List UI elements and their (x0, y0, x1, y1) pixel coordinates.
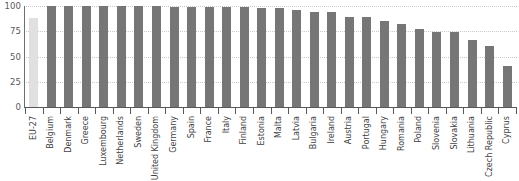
x-axis-tick (25, 107, 26, 114)
x-axis-tick (130, 107, 131, 114)
x-axis-tick (376, 107, 377, 114)
x-label-slot: Sweden (130, 114, 148, 181)
bar[interactable] (99, 6, 108, 107)
bar[interactable] (450, 32, 459, 107)
bar-slot (411, 6, 429, 107)
x-axis-tick (253, 107, 254, 114)
x-axis-category-label: Slovenia (433, 116, 441, 150)
bar-chart: 0255075100 EU-27BelgiumDenmarkGreeceLuxe… (0, 0, 519, 181)
x-axis-category-label: Spain (188, 116, 196, 138)
x-label-slot: United Kingdom (148, 114, 166, 181)
x-axis-category-label: Sweden (135, 116, 143, 148)
x-axis-tick (516, 107, 517, 114)
x-axis-category-label: Ireland (328, 116, 336, 144)
bar[interactable] (345, 17, 354, 107)
bar-slot (463, 6, 481, 107)
x-label-slot: Belgium (43, 114, 61, 181)
bar[interactable] (415, 29, 424, 107)
x-axis-category-label: France (205, 116, 213, 143)
x-axis-tick (323, 107, 324, 114)
bar[interactable] (64, 6, 73, 107)
x-axis-category-label: Finland (240, 116, 248, 145)
bar[interactable] (222, 7, 231, 107)
x-label-slot: Estonia (253, 114, 271, 181)
bar[interactable] (327, 12, 336, 107)
x-axis-tick (393, 107, 394, 114)
x-label-slot: Luxembourg (95, 114, 113, 181)
bar[interactable] (257, 8, 266, 107)
bar[interactable] (240, 7, 249, 107)
plot-area (24, 6, 517, 107)
bar-slot (376, 6, 394, 107)
bar[interactable] (275, 8, 284, 107)
x-label-slot: Greece (78, 114, 96, 181)
x-axis-tick (271, 107, 272, 114)
x-axis-tick (306, 107, 307, 114)
bar-slot (235, 6, 253, 107)
bar[interactable] (485, 46, 494, 107)
bar-slot (43, 6, 61, 107)
bar-slot (253, 6, 271, 107)
bar-slot (113, 6, 131, 107)
y-axis-tick-label: 100 (4, 2, 21, 11)
bar[interactable] (503, 66, 512, 107)
x-axis-tick (235, 107, 236, 114)
x-axis-category-label: Portugal (363, 116, 371, 149)
bar-slot (498, 6, 516, 107)
bar[interactable] (29, 18, 38, 107)
x-label-slot: Malta (270, 114, 288, 181)
bar[interactable] (187, 7, 196, 107)
bar[interactable] (362, 17, 371, 107)
x-label-slot: EU-27 (25, 114, 43, 181)
x-label-slot: Germany (165, 114, 183, 181)
y-axis: 0255075100 (0, 0, 24, 108)
bar-slot (446, 6, 464, 107)
bar-slot (358, 6, 376, 107)
x-label-slot: France (200, 114, 218, 181)
x-axis-category-label: Italy (223, 116, 231, 133)
x-axis-tick (95, 107, 96, 114)
x-axis-tick (463, 107, 464, 114)
bar[interactable] (134, 6, 143, 107)
x-label-slot: Slovenia (428, 114, 446, 181)
bar-slot (218, 6, 236, 107)
bar-slot (183, 6, 201, 107)
bar-slot (341, 6, 359, 107)
bar-slot (393, 6, 411, 107)
bar[interactable] (380, 21, 389, 107)
bar-slot (60, 6, 78, 107)
bar[interactable] (47, 6, 56, 107)
bar[interactable] (292, 10, 301, 107)
bar[interactable] (432, 32, 441, 107)
x-axis-tick (78, 107, 79, 114)
x-axis-category-label: Austria (345, 116, 353, 144)
x-axis-category-label: Bulgaria (310, 116, 318, 149)
x-axis-category-label: United Kingdom (152, 116, 160, 180)
x-label-slot: Poland (411, 114, 429, 181)
bar[interactable] (205, 7, 214, 107)
x-axis-tick (341, 107, 342, 114)
x-axis-category-label: Greece (82, 116, 90, 144)
bar-slot (200, 6, 218, 107)
bar[interactable] (117, 6, 126, 107)
x-axis-category-label: Poland (415, 116, 423, 143)
x-axis-ticks (24, 107, 517, 114)
bar[interactable] (310, 12, 319, 107)
bar[interactable] (170, 7, 179, 107)
x-axis-tick (411, 107, 412, 114)
bar-slot (78, 6, 96, 107)
bar-slot (148, 6, 166, 107)
x-label-slot: Portugal (358, 114, 376, 181)
x-axis-category-label: Malta (275, 116, 283, 138)
x-axis-tick (481, 107, 482, 114)
x-axis-category-label: Belgium (47, 116, 55, 149)
bar[interactable] (397, 24, 406, 107)
x-axis-category-label: Luxembourg (100, 116, 108, 166)
x-label-slot: Hungary (376, 114, 394, 181)
bar[interactable] (82, 6, 91, 107)
bar-series (24, 6, 517, 107)
x-label-slot: Slovakia (446, 114, 464, 181)
x-label-slot: Italy (218, 114, 236, 181)
bar[interactable] (152, 6, 161, 107)
bar[interactable] (468, 40, 477, 107)
